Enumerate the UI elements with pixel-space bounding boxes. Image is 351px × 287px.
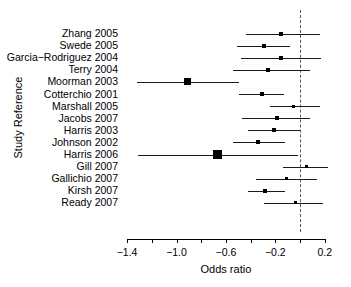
x-axis-tick-label: −1.4 — [117, 247, 138, 258]
x-axis-tick — [177, 239, 178, 243]
x-axis-tick — [201, 239, 202, 243]
x-axis-tick-label: −1.0 — [166, 247, 187, 258]
x-axis: −1.4−1.0−0.6−0.20.2Odds ratio — [0, 0, 351, 287]
x-axis-tick — [127, 239, 128, 243]
forest-plot: Study Reference Zhang 2005Swede 2005Garc… — [0, 0, 351, 287]
x-axis-tick-label: −0.6 — [216, 247, 237, 258]
x-axis-title: Odds ratio — [201, 264, 252, 275]
x-axis-tick — [251, 239, 252, 243]
x-axis-tick-label: 0.2 — [317, 247, 332, 258]
x-axis-tick — [226, 239, 227, 243]
x-axis-tick — [152, 239, 153, 243]
x-axis-tick-label: −0.2 — [265, 247, 286, 258]
x-axis-tick — [325, 239, 326, 243]
x-axis-tick — [300, 239, 301, 243]
x-axis-tick — [275, 239, 276, 243]
